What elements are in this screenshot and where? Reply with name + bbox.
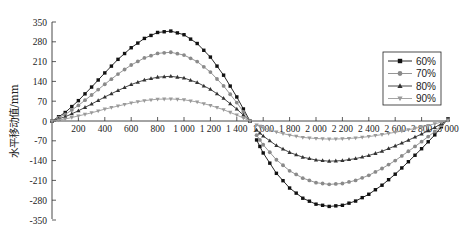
legend-label: 60%: [416, 56, 436, 67]
y-tick-label: -210: [30, 176, 48, 186]
y-tick-label: -70: [34, 136, 47, 146]
y-axis-label: 水平移动值/mm: [8, 84, 20, 157]
legend-label: 80%: [416, 81, 436, 92]
x-tick-label: 1 200: [200, 124, 222, 134]
y-tick-label: -280: [30, 196, 48, 206]
chart: 350280210140700-70-140-210-280-350 20040…: [0, 0, 473, 232]
y-tick-label: 350: [33, 18, 48, 28]
y-tick-label: -140: [30, 156, 48, 166]
x-tick-label: 200: [71, 124, 86, 134]
y-tick-label: 70: [38, 97, 48, 107]
x-tick-label: 400: [98, 124, 113, 134]
y-tick-label: -350: [30, 216, 48, 226]
legend-label: 70%: [416, 68, 436, 79]
x-tick-label: 800: [150, 124, 165, 134]
legend: 60%70%80%90%: [383, 52, 441, 105]
x-tick-label: 2 400: [358, 124, 380, 134]
y-tick-label: 280: [33, 37, 48, 47]
x-tick-label: 1 000: [173, 124, 195, 134]
y-tick-label: 210: [33, 57, 48, 67]
x-tick-label: 2 200: [332, 124, 354, 134]
x-tick-label: 2 000: [305, 124, 327, 134]
legend-label: 90%: [416, 93, 436, 104]
x-tick-label: 600: [124, 124, 139, 134]
y-tick-label: 0: [42, 117, 47, 127]
y-tick-label: 140: [33, 77, 48, 87]
x-tick-label: 1 400: [226, 124, 248, 134]
